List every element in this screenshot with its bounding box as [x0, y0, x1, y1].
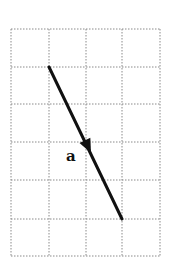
vector-label: a: [66, 147, 76, 165]
grid-diagram: a: [0, 0, 169, 273]
arrowhead-icon: [80, 138, 97, 156]
